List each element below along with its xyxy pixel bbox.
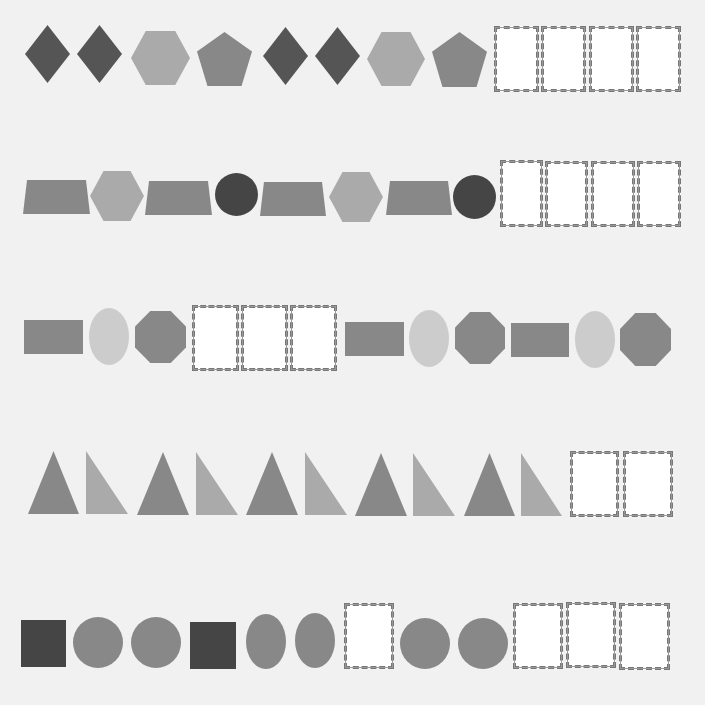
circle-shape bbox=[400, 618, 450, 669]
blank-answer-box[interactable] bbox=[570, 451, 619, 517]
pentagon-shape bbox=[197, 32, 252, 86]
blank-answer-box[interactable] bbox=[290, 305, 337, 371]
rectangle-shape bbox=[24, 320, 83, 354]
blank-answer-box[interactable] bbox=[619, 603, 670, 670]
pattern-worksheet bbox=[0, 0, 705, 705]
blank-answer-box[interactable] bbox=[636, 26, 681, 92]
right-triangle-shape bbox=[196, 452, 238, 515]
triangle-shape bbox=[137, 452, 189, 515]
rectangle-shape bbox=[511, 323, 569, 357]
blank-answer-box[interactable] bbox=[566, 602, 616, 668]
triangle-shape bbox=[246, 452, 298, 515]
blank-answer-box[interactable] bbox=[545, 161, 588, 227]
circle-shape bbox=[458, 618, 508, 669]
trapezoid-shape bbox=[145, 181, 212, 215]
pentagon-shape bbox=[432, 32, 487, 87]
circle-shape bbox=[453, 175, 496, 219]
blank-answer-box[interactable] bbox=[591, 161, 635, 227]
ellipse-shape bbox=[295, 613, 335, 668]
triangle-shape bbox=[464, 453, 515, 516]
right-triangle-shape bbox=[413, 453, 455, 516]
ellipse-shape bbox=[409, 310, 449, 367]
ellipse-shape bbox=[246, 614, 286, 669]
diamond-shape bbox=[25, 25, 70, 83]
blank-answer-box[interactable] bbox=[623, 451, 673, 517]
hexagon-shape bbox=[131, 31, 190, 85]
right-triangle-shape bbox=[86, 451, 128, 514]
blank-answer-box[interactable] bbox=[500, 160, 543, 227]
octagon-shape bbox=[620, 313, 671, 366]
trapezoid-shape bbox=[23, 180, 90, 214]
blank-answer-box[interactable] bbox=[637, 161, 681, 227]
square-shape bbox=[190, 622, 236, 669]
diamond-shape bbox=[315, 27, 360, 85]
circle-shape bbox=[73, 617, 123, 668]
octagon-shape bbox=[455, 312, 505, 364]
circle-shape bbox=[215, 173, 258, 216]
blank-answer-box[interactable] bbox=[513, 603, 563, 669]
square-shape bbox=[21, 620, 66, 667]
hexagon-shape bbox=[329, 172, 383, 222]
blank-answer-box[interactable] bbox=[589, 26, 634, 92]
triangle-shape bbox=[355, 453, 407, 516]
octagon-shape bbox=[135, 311, 186, 363]
trapezoid-shape bbox=[260, 182, 326, 216]
hexagon-shape bbox=[90, 171, 144, 221]
circle-shape bbox=[131, 617, 181, 668]
blank-answer-box[interactable] bbox=[494, 26, 539, 92]
blank-answer-box[interactable] bbox=[344, 603, 394, 669]
trapezoid-shape bbox=[386, 181, 452, 215]
blank-answer-box[interactable] bbox=[241, 305, 288, 371]
right-triangle-shape bbox=[305, 452, 347, 515]
blank-answer-box[interactable] bbox=[192, 305, 239, 371]
hexagon-shape bbox=[367, 32, 425, 86]
blank-answer-box[interactable] bbox=[541, 26, 586, 92]
ellipse-shape bbox=[575, 311, 615, 368]
right-triangle-shape bbox=[521, 453, 562, 516]
diamond-shape bbox=[263, 27, 308, 85]
ellipse-shape bbox=[89, 308, 129, 365]
triangle-shape bbox=[28, 451, 79, 514]
rectangle-shape bbox=[345, 322, 404, 356]
diamond-shape bbox=[77, 25, 122, 83]
